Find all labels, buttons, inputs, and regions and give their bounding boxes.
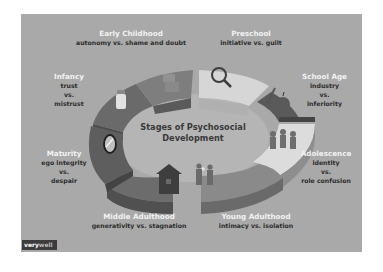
stage-crisis-line-3: inferiority: [292, 99, 357, 108]
stage-name: School Age: [292, 72, 357, 81]
stage-crisis-line-2: vs.: [39, 90, 99, 99]
infographic-panel: Stages of Psychosocial Development Early…: [21, 14, 362, 252]
label-maturity: Maturity ego integrity vs. despair: [31, 149, 97, 185]
label-middle-adulthood: Middle Adulthood generativity vs. stagna…: [79, 212, 199, 230]
baby-bottle-icon: [116, 90, 126, 109]
stage-name: Infancy: [39, 72, 99, 81]
stage-crisis-line-1: identity: [291, 158, 361, 167]
label-preschool: Preschool initiative vs. guilt: [206, 29, 296, 47]
stage-crisis-line-3: role confusion: [291, 176, 361, 185]
peer-group-icon: [270, 129, 296, 149]
label-adolescence: Adolescence identity vs. role confusion: [291, 149, 361, 185]
logo-light: well: [39, 241, 53, 248]
stage-crisis: generativity vs. stagnation: [79, 221, 199, 230]
stage-crisis-line-3: mistrust: [39, 99, 99, 108]
stage-crisis: autonomy vs. shame and doubt: [66, 38, 196, 47]
stage-crisis-line-1: trust: [39, 81, 99, 90]
stage-crisis: initiative vs. guilt: [206, 38, 296, 47]
stage-crisis-line-1: industry: [292, 81, 357, 90]
segment-preschool: [199, 70, 269, 116]
verywell-logo: verywell: [22, 240, 57, 250]
stage-crisis: intimacy vs. isolation: [206, 221, 306, 230]
stage-name: Adolescence: [291, 149, 361, 158]
stage-name: Young Adulthood: [206, 212, 306, 221]
stage-name: Preschool: [206, 29, 296, 38]
label-school-age: School Age industry vs. inferiority: [292, 72, 357, 108]
title-line-1: Stages of Psychosocial: [133, 122, 253, 133]
stage-crisis-line-2: vs.: [292, 90, 357, 99]
stage-crisis-line-2: vs.: [291, 167, 361, 176]
diagram-title: Stages of Psychosocial Development: [133, 122, 253, 144]
stage-name: Early Childhood: [66, 29, 196, 38]
stage-crisis-line-2: vs.: [31, 167, 97, 176]
label-infancy: Infancy trust vs. mistrust: [39, 72, 99, 108]
stage-crisis-line-1: ego integrity: [31, 158, 97, 167]
label-young-adulthood: Young Adulthood intimacy vs. isolation: [206, 212, 306, 230]
stage-name: Maturity: [31, 149, 97, 158]
mirror-icon: [104, 135, 116, 153]
stage-crisis-line-3: despair: [31, 176, 97, 185]
logo-bold: very: [24, 241, 39, 248]
stage-name: Middle Adulthood: [79, 212, 199, 221]
title-line-2: Development: [133, 133, 253, 144]
label-early-childhood: Early Childhood autonomy vs. shame and d…: [66, 29, 196, 47]
